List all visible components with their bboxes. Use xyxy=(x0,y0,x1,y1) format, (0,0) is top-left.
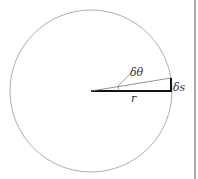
angle-label: δθ xyxy=(130,67,143,78)
arc-label: δs xyxy=(173,82,185,93)
inclined-line xyxy=(91,78,171,91)
angle-arc xyxy=(118,86,119,91)
angle-leader xyxy=(118,74,130,86)
right-border xyxy=(194,0,196,179)
circle-diagram xyxy=(0,0,198,179)
radius-label: r xyxy=(131,93,136,104)
